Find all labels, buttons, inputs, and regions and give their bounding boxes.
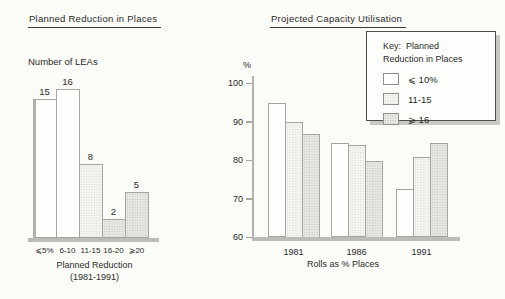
left-chart-x-axis (28, 238, 159, 242)
bar-1986-⩽ 10% (331, 143, 349, 237)
y-tick-mark (246, 198, 253, 200)
y-tick-mark (246, 121, 253, 123)
right-chart-x-axis-caption: Rolls as % Places (283, 259, 403, 269)
y-tick-label: 100 (220, 78, 243, 88)
bar-1981-⩾ 16 (302, 134, 320, 238)
bar-1981-11-15 (285, 122, 303, 238)
legend-row: 11-15 (383, 92, 487, 106)
x-group-label: 1991 (397, 247, 447, 257)
right-chart-y-unit-label: % (243, 60, 251, 70)
left-chart-title-text: Planned Reduction in Places (28, 13, 161, 28)
right-chart-title: Projected Capacity Utilisation (270, 8, 406, 28)
right-chart-x-axis (252, 237, 460, 241)
bar-1991-⩾ 16 (430, 143, 448, 237)
legend-title-line1: Key: Planned (383, 40, 487, 53)
y-tick-mark (246, 160, 253, 162)
y-tick-mark (246, 83, 253, 85)
legend-label: ⩾ 16 (408, 114, 429, 125)
bar-value-label: 16 (48, 76, 87, 87)
legend-row: ⩽ 10% (383, 72, 487, 86)
y-tick-label: 70 (220, 194, 243, 204)
legend-row: ⩾ 16 (383, 112, 487, 126)
left-chart-y-axis-label: Number of LEAs (28, 56, 98, 67)
bar-⩽5% (33, 99, 57, 239)
bar-6-10 (56, 89, 80, 238)
legend-swatch (383, 73, 399, 85)
y-tick-label: 60 (220, 232, 243, 242)
left-chart-x-axis-caption: Planned Reduction (23, 260, 166, 270)
legend-entries: ⩽ 10%11-15⩾ 16 (383, 72, 487, 126)
bar-11-15 (79, 164, 103, 238)
legend-box: Key: Planned Reduction in Places ⩽ 10%11… (366, 31, 496, 121)
right-chart-y-axis (252, 76, 254, 238)
y-tick-label: 90 (220, 117, 243, 127)
scanned-chart-figure: Planned Reduction in Places Number of LE… (0, 0, 505, 299)
right-chart-title-text: Projected Capacity Utilisation (270, 13, 406, 28)
bar-16-20 (102, 219, 126, 238)
legend-label: ⩽ 10% (408, 74, 438, 85)
bar-value-label: 8 (71, 151, 110, 162)
bar-1991-11-15 (413, 157, 431, 238)
bar-1981-⩽ 10% (268, 103, 286, 238)
x-group-label: 1981 (269, 247, 319, 257)
y-tick-label: 80 (220, 155, 243, 165)
left-chart-x-axis-caption-note: (1981-1991) (23, 272, 166, 282)
x-group-label: 1986 (332, 247, 382, 257)
left-chart-title: Planned Reduction in Places (28, 8, 161, 28)
legend-label: 11-15 (408, 94, 432, 105)
bar-1986-⩾ 16 (365, 161, 383, 238)
legend-title-line2: Reduction in Places (383, 53, 487, 66)
bar-1991-⩽ 10% (396, 189, 414, 237)
bar-1986-11-15 (348, 145, 366, 237)
bar-⩾20 (125, 192, 149, 239)
bar-value-label: 5 (117, 179, 156, 190)
category-label: ⩾20 (117, 246, 156, 255)
legend-swatch (383, 113, 399, 125)
legend-swatch (383, 93, 399, 105)
